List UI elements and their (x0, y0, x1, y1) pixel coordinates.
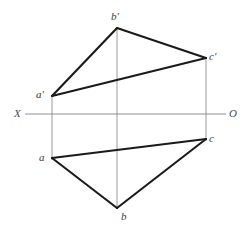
edge-b-prime-c-prime (117, 28, 206, 58)
frontal-view-triangle (52, 28, 206, 96)
projection-diagram: X O a' b' c' a b c (0, 0, 250, 229)
projection-drawing-canvas (0, 0, 250, 229)
horizontal-view-triangle (52, 139, 206, 208)
axis-label-o: O (229, 108, 237, 119)
vertex-label-b: b (121, 211, 127, 222)
vertex-label-a: a (39, 152, 45, 163)
edge-c-prime-a-prime (52, 58, 206, 96)
axis-label-x: X (14, 108, 21, 119)
edge-c-a (52, 139, 206, 158)
vertex-label-c: c (209, 133, 214, 144)
vertex-label-a-prime: a' (36, 89, 44, 100)
projection-lines-group (52, 28, 206, 209)
edge-a-b (52, 158, 117, 208)
vertex-label-b-prime: b' (111, 11, 119, 22)
edge-a-prime-b-prime (52, 28, 117, 96)
vertex-label-c-prime: c' (209, 51, 216, 62)
